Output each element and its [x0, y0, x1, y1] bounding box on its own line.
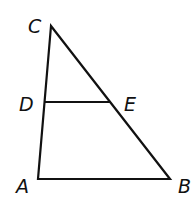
label-c: C	[28, 15, 42, 37]
triangle-diagram: C D E A B	[0, 0, 195, 214]
label-a: A	[14, 175, 29, 197]
label-b: B	[178, 175, 191, 197]
label-e: E	[124, 93, 136, 115]
label-d: D	[19, 93, 34, 115]
